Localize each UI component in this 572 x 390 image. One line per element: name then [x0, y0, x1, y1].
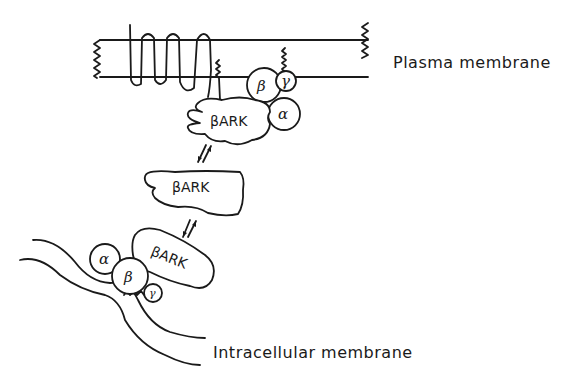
plasma-membrane: [94, 23, 368, 78]
beta-top-label: β: [256, 77, 266, 95]
bark-middle-label: βARK: [172, 179, 210, 195]
lower-equilibrium-arrows: [183, 220, 196, 237]
receptor-serpentine: [130, 25, 211, 97]
gamma-lipid-anchor-top: [282, 48, 286, 72]
bark-top-label: βARK: [210, 113, 248, 129]
upper-equilibrium-arrows: [198, 145, 211, 162]
plasma-membrane-label: Plasma membrane: [393, 53, 551, 72]
top-complex: βARK β γ α: [188, 48, 300, 144]
gamma-bottom-label: γ: [149, 287, 156, 300]
intracellular-membrane-label: Intracellular membrane: [213, 343, 413, 362]
bark-translocation-diagram: βARK β γ α βARK βARK α β γ Pl: [0, 0, 572, 390]
alpha-bottom-label: α: [99, 250, 109, 268]
alpha-top-label: α: [278, 105, 288, 123]
bottom-complex: βARK α β γ: [90, 228, 214, 302]
bark-cytosolic: βARK: [145, 171, 244, 215]
gamma-top-label: γ: [281, 72, 290, 90]
beta-bottom-label: β: [123, 268, 133, 286]
